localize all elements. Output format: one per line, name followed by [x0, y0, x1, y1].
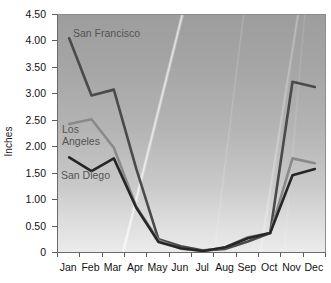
y-tick-label: 2.50: [12, 114, 46, 126]
y-tick-label: 0.50: [12, 220, 46, 232]
x-tick-mark: [169, 253, 170, 257]
x-tick-mark: [236, 253, 237, 257]
x-tick-label: Jul: [195, 261, 208, 273]
x-tick-label: Mar: [104, 261, 122, 273]
x-tick-mark: [213, 253, 214, 257]
series-lines: [58, 14, 326, 252]
x-tick-label: Dec: [304, 261, 323, 273]
x-tick-mark: [325, 253, 326, 257]
x-tick-label: Oct: [261, 261, 277, 273]
y-tick-mark: [52, 199, 57, 200]
y-tick-label: 0: [12, 246, 46, 258]
y-tick-label: 4.50: [12, 8, 46, 20]
y-tick-mark: [52, 252, 57, 253]
series-line-san-francisco: [69, 38, 315, 250]
x-tick-label: May: [148, 261, 168, 273]
y-tick-mark: [52, 173, 57, 174]
x-tick-mark: [102, 253, 103, 257]
x-tick-label: Jan: [60, 261, 77, 273]
y-tick-label: 3.50: [12, 61, 46, 73]
x-tick-mark: [57, 253, 58, 257]
y-tick-mark: [52, 14, 57, 15]
x-tick-label: Feb: [81, 261, 99, 273]
x-tick-label: Jun: [171, 261, 188, 273]
plot-frame-top: [57, 14, 326, 15]
x-tick-mark: [258, 253, 259, 257]
x-tick-mark: [191, 253, 192, 257]
y-tick-label: 3.00: [12, 87, 46, 99]
plot-frame-right: [325, 14, 326, 252]
plot-area: [57, 14, 326, 252]
y-tick-mark: [52, 40, 57, 41]
x-tick-mark: [124, 253, 125, 257]
y-tick-label: 4.00: [12, 34, 46, 46]
y-tick-label: 1.00: [12, 193, 46, 205]
x-tick-label: Nov: [282, 261, 301, 273]
y-tick-mark: [52, 146, 57, 147]
y-tick-mark: [52, 226, 57, 227]
y-tick-mark: [52, 93, 57, 94]
y-tick-mark: [52, 67, 57, 68]
y-tick-label: 2.00: [12, 140, 46, 152]
x-tick-label: Sep: [237, 261, 256, 273]
y-tick-label: 1.50: [12, 167, 46, 179]
x-tick-label: Aug: [215, 261, 234, 273]
x-tick-mark: [79, 253, 80, 257]
x-tick-label: Apr: [127, 261, 143, 273]
x-tick-mark: [146, 253, 147, 257]
y-tick-mark: [52, 120, 57, 121]
x-tick-mark: [303, 253, 304, 257]
y-axis-tick-labels: 4.504.003.503.002.502.001.501.000.500: [12, 0, 46, 283]
x-tick-mark: [280, 253, 281, 257]
precipitation-line-chart: Inches 4.504.003.503.002.502.001.501.000…: [0, 0, 331, 283]
